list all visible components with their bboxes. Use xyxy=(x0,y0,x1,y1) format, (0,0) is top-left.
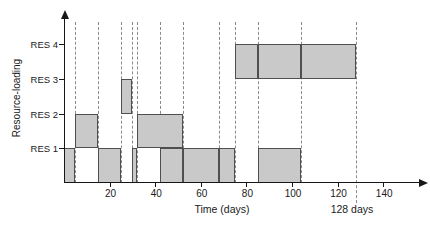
x-tick-label: 60 xyxy=(196,189,207,199)
x-tick-mark xyxy=(201,183,202,187)
x-tick-label: 120 xyxy=(330,189,347,199)
completion-days-label: 128 days xyxy=(331,204,374,215)
y-axis-arrow-icon xyxy=(61,10,69,19)
y-category-label: RES 2 xyxy=(31,110,58,120)
x-tick-mark xyxy=(292,183,293,187)
x-tick-label: 20 xyxy=(105,189,116,199)
resource-bar-res1 xyxy=(183,148,219,183)
x-tick-mark xyxy=(246,183,247,187)
resource-bar-res1 xyxy=(98,148,121,183)
y-axis-line xyxy=(64,14,65,183)
resource-bar-res4 xyxy=(235,44,258,79)
x-tick-mark xyxy=(110,183,111,187)
resource-bar-res2 xyxy=(137,114,183,149)
x-tick-label: 100 xyxy=(285,189,302,199)
resource-bar-res1 xyxy=(64,148,75,183)
y-axis-title-text: Resource-loading xyxy=(12,59,22,137)
y-category-label: RES 1 xyxy=(31,145,58,155)
resource-bar-res4 xyxy=(301,44,356,79)
x-tick-mark xyxy=(155,183,156,187)
x-tick-label: 40 xyxy=(151,189,162,199)
resource-bar-res1 xyxy=(132,148,137,183)
resource-bar-res1 xyxy=(219,148,235,183)
resource-bar-res3 xyxy=(121,79,132,114)
resource-bar-res2 xyxy=(75,114,98,149)
x-axis-arrow-icon xyxy=(419,179,428,187)
x-tick-mark xyxy=(383,183,384,187)
completion-dashed-line xyxy=(356,22,357,203)
resource-bar-res4 xyxy=(258,44,301,79)
x-axis-title: Time (days) xyxy=(194,204,249,215)
x-tick-label: 140 xyxy=(376,189,393,199)
resource-bar-res1 xyxy=(258,148,301,183)
resource-loading-chart: 20406080100120140RES 1RES 2RES 3RES 4 Re… xyxy=(0,0,430,232)
y-category-label: RES 4 xyxy=(31,40,58,50)
event-dashed-line xyxy=(137,22,138,183)
y-category-label: RES 3 xyxy=(31,75,58,85)
x-tick-label: 80 xyxy=(242,189,253,199)
resource-bar-res1 xyxy=(160,148,183,183)
x-axis-line xyxy=(64,182,421,183)
event-dashed-line xyxy=(75,22,76,183)
x-tick-mark xyxy=(338,183,339,187)
